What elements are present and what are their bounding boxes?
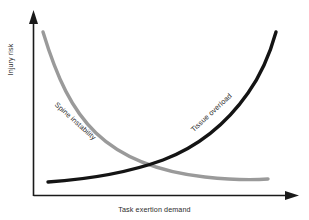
injury-risk-chart: Injury risk Task exertion demand Spine i…: [0, 0, 309, 220]
x-axis-label: Task exertion demand: [0, 205, 309, 214]
x-axis-arrow-icon: [285, 191, 299, 200]
curve-tissue-overload: [48, 32, 276, 182]
chart-plot-area: [0, 0, 309, 220]
y-axis-arrow-icon: [29, 10, 38, 24]
curve-spine-instability: [43, 32, 268, 180]
y-axis-label: Injury risk: [6, 32, 15, 88]
